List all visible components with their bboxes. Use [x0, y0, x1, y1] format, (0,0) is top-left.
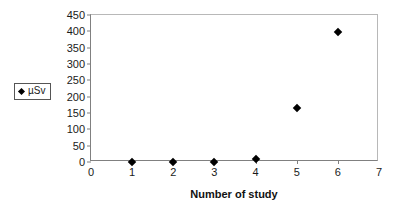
y-tick-mark	[87, 80, 91, 81]
diamond-marker-icon	[18, 87, 25, 94]
x-tick-mark	[338, 160, 339, 164]
chart-legend: µSv	[14, 83, 51, 100]
chart-container: µSv 050100150200250300350400450 01234567…	[0, 0, 397, 210]
y-tick-mark	[87, 129, 91, 130]
data-point	[334, 28, 342, 36]
plot-area: 050100150200250300350400450 01234567	[90, 14, 378, 161]
y-tick-mark	[87, 145, 91, 146]
y-tick-mark	[87, 64, 91, 65]
x-tick-label: 7	[376, 160, 382, 178]
y-tick-mark	[87, 113, 91, 114]
x-axis-title: Number of study	[90, 188, 378, 200]
y-tick-mark	[87, 96, 91, 97]
y-tick-mark	[87, 15, 91, 16]
legend-series-label: µSv	[28, 86, 45, 96]
data-point	[292, 104, 300, 112]
y-tick-mark	[87, 47, 91, 48]
x-tick-label: 0	[88, 160, 94, 178]
x-tick-mark	[297, 160, 298, 164]
y-tick-mark	[87, 31, 91, 32]
